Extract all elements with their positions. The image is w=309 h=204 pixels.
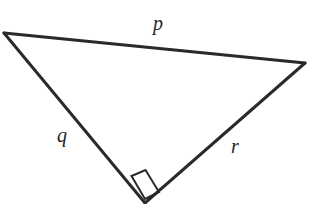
geometry-figure: p q r [0, 0, 309, 204]
side-label-p: p [151, 12, 163, 35]
triangle-svg: p q r [0, 0, 309, 204]
side-label-r: r [231, 135, 239, 157]
side-label-q: q [57, 124, 67, 147]
